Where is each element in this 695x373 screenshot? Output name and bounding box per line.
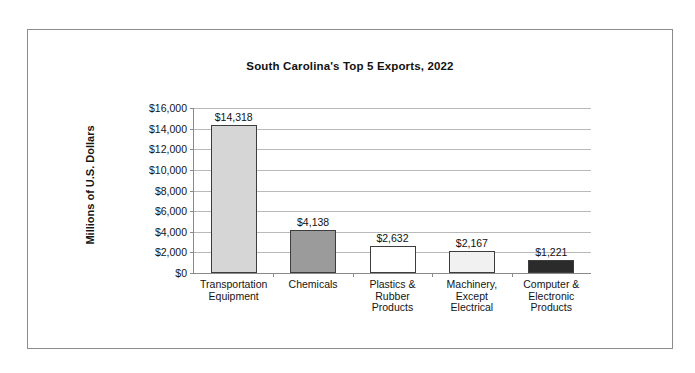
- y-tick-mark-2000: [190, 252, 194, 253]
- screenshot-root: South Carolina's Top 5 Exports, 2022 Mil…: [0, 0, 695, 373]
- y-tick-mark-6000: [190, 211, 194, 212]
- bar-value-label: $2,167: [456, 237, 488, 249]
- bar-value-label: $4,138: [297, 216, 329, 228]
- y-tick-label: $8,000: [155, 185, 187, 197]
- bar: [370, 246, 416, 273]
- x-tick-mark: [432, 273, 433, 277]
- bar-value-label: $1,221: [535, 246, 567, 258]
- bar-value-label: $14,318: [215, 111, 253, 123]
- y-tick-mark-16000: [190, 108, 194, 109]
- bar: [449, 251, 495, 273]
- y-tick-label: $4,000: [155, 226, 187, 238]
- category-label: Computer & Electronic Products: [505, 279, 598, 314]
- y-tick-label: $2,000: [155, 246, 187, 258]
- y-tick-label: $14,000: [149, 123, 187, 135]
- x-tick-mark: [353, 273, 354, 277]
- bar: [528, 260, 574, 273]
- y-tick-label: $0: [175, 267, 187, 279]
- y-axis-title: Millions of U.S. Dollars: [84, 100, 96, 270]
- chart-title: South Carolina's Top 5 Exports, 2022: [28, 60, 672, 72]
- y-tick-mark-12000: [190, 149, 194, 150]
- bar: [290, 230, 336, 273]
- y-tick-label: $12,000: [149, 143, 187, 155]
- chart-frame: South Carolina's Top 5 Exports, 2022 Mil…: [27, 29, 673, 349]
- y-tick-mark-14000: [190, 129, 194, 130]
- plot-area: $16,000$14,000$12,000$10,000$8,000$6,000…: [194, 108, 591, 273]
- y-tick-mark-10000: [190, 170, 194, 171]
- bar: [211, 125, 257, 273]
- gridline-16000: [194, 108, 591, 109]
- y-tick-mark-4000: [190, 232, 194, 233]
- y-tick-mark-0: [190, 273, 194, 274]
- y-tick-label: $6,000: [155, 205, 187, 217]
- y-tick-mark-8000: [190, 191, 194, 192]
- y-tick-label: $10,000: [149, 164, 187, 176]
- gridline-0: [194, 273, 591, 274]
- y-tick-label: $16,000: [149, 102, 187, 114]
- x-tick-mark: [273, 273, 274, 277]
- x-tick-mark: [512, 273, 513, 277]
- bar-value-label: $2,632: [376, 232, 408, 244]
